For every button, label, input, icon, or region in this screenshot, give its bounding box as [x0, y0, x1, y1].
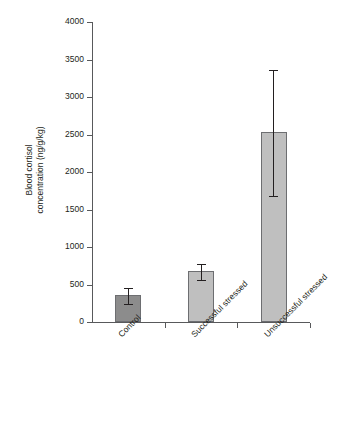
y-axis-title-line1: Blood cortisol [24, 127, 35, 214]
y-axis-tick-label: 2000 [46, 166, 84, 176]
y-axis-title-line2: concentration (ng/g/kg) [35, 127, 46, 214]
y-axis-tick-label: 0 [46, 316, 84, 326]
y-axis-tick-label: 3000 [46, 91, 84, 101]
error-bar-line [128, 288, 129, 305]
error-bar-cap [197, 264, 206, 265]
error-bar-line [201, 264, 202, 281]
y-axis-tick-label: 1000 [46, 241, 84, 251]
y-axis-tick [87, 210, 92, 211]
x-axis-tick [237, 323, 238, 328]
plot-area: 05001000150020002500300035004000 [92, 22, 310, 322]
chart-figure: Blood cortisol concentration (ng/g/kg) 0… [0, 0, 355, 425]
y-axis-tick [87, 22, 92, 23]
error-bar-cap [197, 280, 206, 281]
y-axis-tick [87, 285, 92, 286]
y-axis-tick [87, 247, 92, 248]
x-axis-tick [165, 323, 166, 328]
error-bar-cap [269, 70, 278, 71]
error-bar-cap [269, 196, 278, 197]
y-axis-tick [87, 135, 92, 136]
error-bar-line [273, 70, 274, 196]
error-bar-cap [124, 304, 133, 305]
x-axis-tick [310, 323, 311, 328]
error-bar [196, 264, 206, 281]
y-axis-tick-label: 3500 [46, 54, 84, 64]
error-bar [123, 288, 133, 305]
y-axis-tick-label: 2500 [46, 129, 84, 139]
y-axis-tick [87, 322, 92, 323]
y-axis-tick [87, 97, 92, 98]
y-axis-tick-label: 4000 [46, 16, 84, 26]
error-bar-cap [124, 288, 133, 289]
y-axis-tick [87, 172, 92, 173]
y-axis-tick-label: 500 [46, 279, 84, 289]
y-axis-tick-label: 1500 [46, 204, 84, 214]
y-axis-tick [87, 60, 92, 61]
y-axis-line [92, 22, 93, 323]
error-bar [269, 70, 279, 196]
